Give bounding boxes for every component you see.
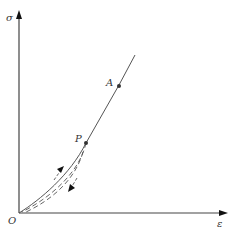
x-axis-arrowhead-icon bbox=[219, 210, 228, 216]
loading-arrow-icon bbox=[57, 166, 64, 173]
unloading-arrow-icon bbox=[68, 184, 75, 192]
y-axis-label: σ bbox=[6, 12, 14, 23]
origin-label: O bbox=[8, 215, 16, 226]
point-a-label: A bbox=[105, 77, 113, 88]
unloading-curve-1 bbox=[22, 143, 86, 212]
point-p-marker bbox=[84, 141, 88, 145]
x-axis-label: ε bbox=[217, 218, 222, 229]
y-axis-arrowhead-icon bbox=[16, 10, 22, 19]
point-a-marker bbox=[117, 84, 121, 88]
point-p-label: P bbox=[74, 133, 82, 144]
stress-strain-diagram: σ ε O A P bbox=[0, 0, 239, 245]
